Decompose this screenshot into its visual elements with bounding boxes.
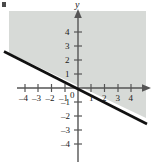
y-tick-label-1: 1	[65, 70, 70, 79]
y-tick-label--3: –3	[61, 126, 70, 135]
x-tick-label-4: 4	[129, 94, 134, 103]
y-tick-label--4: –4	[61, 140, 70, 149]
x-tick-label-2: 2	[102, 94, 107, 103]
y-tick-label--1: –1	[61, 98, 70, 107]
y-tick-label-4: 4	[65, 28, 70, 37]
x-tick-label--4: –4	[19, 94, 28, 103]
y-tick-label-2: 2	[65, 56, 70, 65]
x-tick-label--3: –3	[32, 94, 41, 103]
x-tick-label-3: 3	[116, 94, 121, 103]
y-axis-label: y	[75, 0, 79, 10]
y-tick-label--2: –2	[61, 112, 70, 121]
origin-label: 0	[70, 91, 75, 100]
graph-figure: y –4 –3 –2 –1 0 1 2 3 4 4 3 2 1 –1 –2 –3…	[0, 0, 155, 168]
x-tick-label--2: –2	[46, 94, 55, 103]
x-tick-label-1: 1	[89, 94, 94, 103]
coordinate-plane	[0, 0, 155, 168]
y-tick-label-3: 3	[65, 42, 70, 51]
